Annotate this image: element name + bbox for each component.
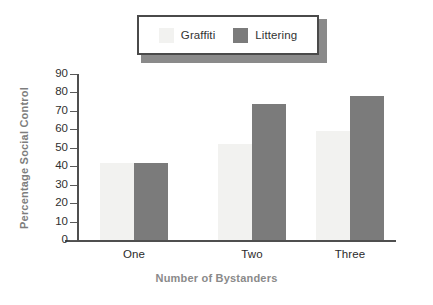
x-axis-label-three: Three <box>302 248 398 260</box>
legend-label-littering: Littering <box>255 29 297 41</box>
y-axis-tick <box>70 222 77 223</box>
y-axis-tick <box>70 185 77 186</box>
y-axis-tick-label: 30 <box>46 178 68 190</box>
bar-graffiti-two <box>218 144 252 240</box>
bar-littering-one <box>134 163 168 240</box>
y-axis-tick <box>70 148 77 149</box>
bar-littering-two <box>252 104 286 240</box>
littering-swatch <box>233 28 248 43</box>
legend-entry-graffiti: Graffiti <box>159 28 215 43</box>
x-axis-line <box>65 240 396 242</box>
y-axis-tick <box>70 166 77 167</box>
y-axis-tick-label: 40 <box>46 159 68 171</box>
y-axis-tick-label: 50 <box>46 141 68 153</box>
y-axis-tick <box>70 111 77 112</box>
bar-group <box>100 74 168 240</box>
bar-littering-three <box>350 96 384 240</box>
y-axis-tick <box>70 240 77 241</box>
y-axis-tick-label: 0 <box>46 233 68 245</box>
x-axis-label-two: Two <box>204 248 300 260</box>
legend-label-graffiti: Graffiti <box>181 29 215 41</box>
y-axis-tick-label: 60 <box>46 122 68 134</box>
bar-group <box>218 74 286 240</box>
y-axis-tick <box>70 129 77 130</box>
legend-entry-littering: Littering <box>233 28 297 43</box>
y-axis-title: Percentage Social Control <box>18 73 30 243</box>
plot-area <box>78 74 396 240</box>
x-axis-label-one: One <box>86 248 182 260</box>
y-axis-tick-label: 10 <box>46 215 68 227</box>
chart-legend: Graffiti Littering <box>137 15 319 55</box>
y-axis-tick-label: 20 <box>46 196 68 208</box>
y-axis-tick-label: 90 <box>46 67 68 79</box>
graffiti-swatch <box>159 28 174 43</box>
y-axis-tick <box>70 92 77 93</box>
y-axis-tick <box>70 203 77 204</box>
y-axis-tick <box>70 74 77 75</box>
y-axis-tick-label: 80 <box>46 85 68 97</box>
bar-graffiti-three <box>316 131 350 240</box>
bar-graffiti-one <box>100 163 134 240</box>
y-axis-tick-label: 70 <box>46 104 68 116</box>
x-axis-title: Number of Bystanders <box>0 272 433 284</box>
bar-group <box>316 74 384 240</box>
y-axis-tick-labels: 0102030405060708090 <box>42 0 68 305</box>
